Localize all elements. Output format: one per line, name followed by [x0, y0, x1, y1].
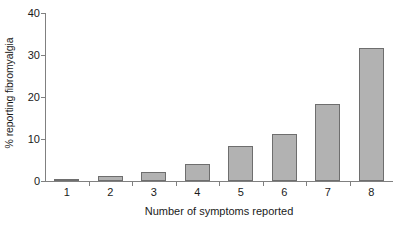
y-tick-mark [41, 13, 46, 14]
y-tick-mark [41, 139, 46, 140]
y-tick-label: 40 [18, 7, 40, 19]
bar [272, 134, 297, 181]
x-tick-label: 3 [139, 186, 169, 198]
bar [54, 179, 79, 181]
x-axis-tick-labels: 12345678 [45, 186, 393, 204]
y-axis-tick-labels: 010203040 [16, 0, 40, 233]
x-tick-label: 2 [95, 186, 125, 198]
x-axis-title: Number of symptoms reported [45, 205, 393, 217]
x-tick-label: 1 [52, 186, 82, 198]
x-tick-label: 6 [269, 186, 299, 198]
x-tick-label: 5 [226, 186, 256, 198]
bar [98, 176, 123, 181]
y-tick-mark [41, 55, 46, 56]
bar [315, 104, 340, 181]
x-tick-label: 4 [182, 186, 212, 198]
y-tick-mark [41, 181, 46, 182]
y-axis-title-text: % reporting fibromyalgia [3, 37, 15, 148]
x-tick-label: 8 [356, 186, 386, 198]
y-tick-label: 10 [18, 133, 40, 145]
y-tick-label: 0 [18, 175, 40, 187]
bar [185, 164, 210, 181]
bar [228, 146, 253, 181]
x-tick-label: 7 [313, 186, 343, 198]
y-tick-label: 30 [18, 49, 40, 61]
x-axis-title-text: Number of symptoms reported [145, 205, 294, 217]
plot-area [45, 13, 393, 181]
bar-chart-figure: % reporting fibromyalgia 010203040 12345… [0, 0, 399, 233]
y-tick-mark [41, 97, 46, 98]
bar [141, 172, 166, 181]
bar [359, 48, 384, 181]
y-tick-label: 20 [18, 91, 40, 103]
